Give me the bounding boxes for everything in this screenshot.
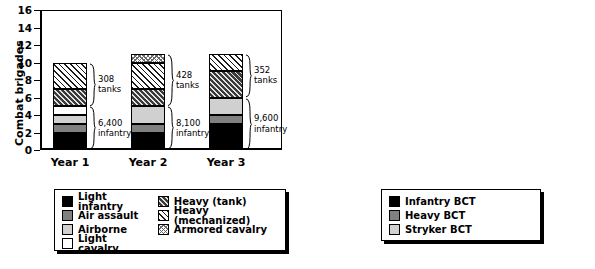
legend-item: Heavy BCT xyxy=(389,209,533,222)
legend-item: Infantry BCT xyxy=(389,195,533,208)
bar-segment xyxy=(131,63,165,89)
bar-segment xyxy=(131,133,165,151)
y-tick-label: 12 xyxy=(17,40,32,51)
y-tick-mark xyxy=(34,28,40,29)
legend-label: Light cavalry xyxy=(78,234,148,254)
bar-segment xyxy=(53,124,87,133)
y-tick-label: 4 xyxy=(25,110,32,121)
annotation-infantry: 8,100infantry xyxy=(176,118,209,138)
brace-infantry xyxy=(245,98,252,151)
legend-swatch-icon xyxy=(389,196,400,207)
legend-item: Air assault xyxy=(62,209,148,222)
annotation-tanks: 428tanks xyxy=(176,70,199,90)
legend-bcts: Infantry BCTHeavy BCTStryker BCT xyxy=(381,189,541,241)
y-tick-mark xyxy=(34,80,40,81)
y-tick-mark xyxy=(34,115,40,116)
legend-item: Light infantry xyxy=(62,195,148,208)
annotation-line: infantry xyxy=(254,124,287,134)
y-tick-label: 2 xyxy=(25,127,32,138)
legend-swatch-icon xyxy=(158,210,169,221)
bar-segment xyxy=(53,115,87,124)
y-tick-label: 14 xyxy=(17,22,32,33)
annotation-tanks: 352tanks xyxy=(254,65,277,85)
legend-swatch-icon xyxy=(158,196,169,207)
brace-infantry xyxy=(167,106,174,150)
x-tick-label: Year 2 xyxy=(129,156,168,169)
chart-combat-brigades: Combat brigades 0246810121416 Year 1Year… xyxy=(0,0,292,180)
annotation-tanks: 308tanks xyxy=(98,74,121,94)
annotation-line: 9,600 xyxy=(254,114,287,124)
annotation-line: tanks xyxy=(254,76,277,86)
legend-swatch-icon xyxy=(62,238,73,249)
legend-item: Heavy (mechanized) xyxy=(158,209,278,222)
x-tick-label: Year 1 xyxy=(51,156,90,169)
y-tick-mark xyxy=(34,45,40,46)
legend-item: Stryker BCT xyxy=(389,223,533,236)
annotation-line: infantry xyxy=(176,128,209,138)
bar-segment xyxy=(131,124,165,133)
bar-year-3 xyxy=(209,54,243,150)
legend-label: Infantry BCT xyxy=(405,197,476,207)
annotation-line: 8,100 xyxy=(176,118,209,128)
legend-swatch-icon xyxy=(389,210,400,221)
bar-segment xyxy=(131,106,165,124)
legend-swatch-icon xyxy=(389,224,400,235)
bar-segment xyxy=(131,89,165,107)
bar-segment xyxy=(209,115,243,124)
legend-column-bcts: Infantry BCTHeavy BCTStryker BCT xyxy=(389,195,533,236)
bar-segment xyxy=(209,124,243,150)
bar-segment xyxy=(53,63,87,89)
annotation-line: 428 xyxy=(176,70,199,80)
y-tick-mark xyxy=(34,150,40,151)
y-tick-label: 16 xyxy=(17,5,32,16)
annotation-infantry: 9,600infantry xyxy=(254,114,287,134)
legend-swatch-icon xyxy=(158,224,169,235)
plot-area-left: 0246810121416 Year 1Year 2Year 3 308tank… xyxy=(40,10,282,150)
y-tick-label: 10 xyxy=(17,57,32,68)
bar-segment xyxy=(209,98,243,116)
legend-swatch-icon xyxy=(62,210,73,221)
annotation-line: tanks xyxy=(98,84,121,94)
figure-root: Combat brigades 0246810121416 Year 1Year… xyxy=(0,0,595,269)
bar-segment xyxy=(53,106,87,115)
x-tick-label: Year 3 xyxy=(207,156,246,169)
brace-tanks xyxy=(89,63,96,107)
legend-item: Light cavalry xyxy=(62,237,148,250)
annotation-line: 352 xyxy=(254,65,277,75)
y-tick-mark xyxy=(34,63,40,64)
y-tick-mark xyxy=(34,10,40,11)
legend-combat-brigades: Light infantryAir assaultAirborneLight c… xyxy=(54,189,286,251)
y-tick-label: 6 xyxy=(25,92,32,103)
bar-segment xyxy=(209,71,243,97)
y-tick-mark xyxy=(34,98,40,99)
legend-label: Armored cavalry xyxy=(174,225,267,235)
bar-segment xyxy=(209,54,243,72)
legend-column-a: Light infantryAir assaultAirborneLight c… xyxy=(62,195,148,250)
chart-bcts: BCTs 0246810121416 Year 1Year 2Year 3 34… xyxy=(292,0,595,180)
annotation-infantry: 6,400infantry xyxy=(98,118,131,138)
annotation-line: 308 xyxy=(98,74,121,84)
legend-item: Armored cavalry xyxy=(158,223,278,236)
annotation-line: tanks xyxy=(176,80,199,90)
bar-year-2 xyxy=(131,54,165,150)
bar-segment xyxy=(131,54,165,63)
legend-label: Heavy BCT xyxy=(405,211,465,221)
brace-tanks xyxy=(167,54,174,107)
annotation-line: 6,400 xyxy=(98,118,131,128)
bar-segment xyxy=(53,133,87,151)
legend-label: Stryker BCT xyxy=(405,225,472,235)
legend-swatch-icon xyxy=(62,196,73,207)
annotation-line: infantry xyxy=(98,128,131,138)
legend-label: Air assault xyxy=(78,211,138,221)
y-tick-label: 0 xyxy=(25,145,32,156)
legend-column-b: Heavy (tank)Heavy (mechanized)Armored ca… xyxy=(158,195,278,250)
bar-year-1 xyxy=(53,63,87,151)
brace-infantry xyxy=(89,106,96,150)
y-tick-mark xyxy=(34,133,40,134)
bar-segment xyxy=(53,89,87,107)
brace-tanks xyxy=(245,54,252,98)
y-tick-label: 8 xyxy=(25,75,32,86)
legend-swatch-icon xyxy=(62,224,73,235)
